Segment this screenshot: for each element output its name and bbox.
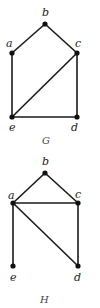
vertex-label-d: d — [74, 271, 81, 284]
vertex-label-a: a — [8, 189, 15, 202]
graph-g: abcde — [6, 6, 81, 134]
edge-a-b — [13, 173, 45, 203]
edge-a-d — [13, 203, 78, 266]
graph-diagram: abcde abcde G H — [0, 0, 100, 308]
graph-h: abcde — [8, 155, 81, 284]
vertex-label-a: a — [6, 37, 13, 50]
vertex-b — [42, 170, 47, 175]
vertex-d — [75, 263, 80, 268]
edge-e-c — [12, 53, 77, 117]
vertex-label-c: c — [75, 188, 81, 201]
edge-b-c — [45, 24, 77, 53]
vertex-label-e: e — [10, 271, 17, 284]
vertex-b — [42, 21, 47, 26]
vertex-label-b: b — [42, 155, 49, 168]
vertex-label-e: e — [9, 121, 16, 134]
vertex-label-d: d — [71, 121, 78, 134]
vertex-e — [9, 114, 14, 119]
vertex-a — [9, 50, 14, 55]
vertex-label-c: c — [75, 37, 81, 50]
caption-h: H — [39, 294, 49, 305]
caption-g: G — [42, 135, 50, 146]
vertex-d — [74, 114, 79, 119]
vertex-e — [10, 263, 15, 268]
vertex-label-b: b — [42, 6, 49, 19]
edge-a-b — [12, 24, 45, 53]
edge-b-c — [45, 173, 78, 203]
vertex-c — [75, 200, 80, 205]
vertex-c — [74, 50, 79, 55]
